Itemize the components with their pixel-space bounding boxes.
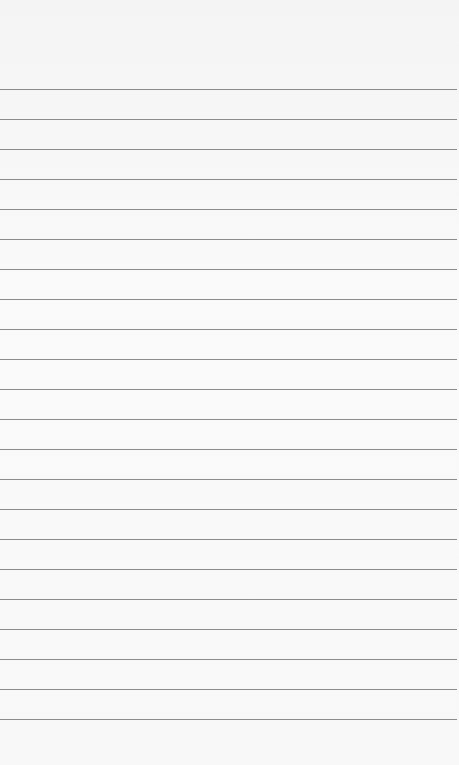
ruled-line [0,659,457,660]
lined-paper-sheet [0,0,459,765]
ruled-line [0,389,457,390]
ruled-line [0,119,457,120]
ruled-line [0,569,457,570]
ruled-line [0,149,457,150]
ruled-line [0,299,457,300]
ruled-line [0,419,457,420]
ruled-line [0,209,457,210]
ruled-line [0,719,457,720]
ruled-line [0,449,457,450]
ruled-line [0,359,457,360]
ruled-line [0,179,457,180]
ruled-line [0,629,457,630]
ruled-line [0,329,457,330]
ruled-line [0,599,457,600]
ruled-line [0,239,457,240]
ruled-line [0,269,457,270]
ruled-line [0,689,457,690]
ruled-line [0,509,457,510]
ruled-line [0,539,457,540]
ruled-line [0,479,457,480]
ruled-line [0,89,457,90]
